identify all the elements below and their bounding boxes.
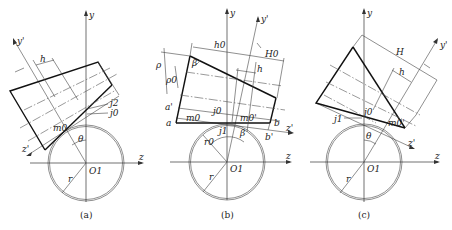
caption-c: (c) <box>358 210 370 220</box>
top-arrow-tick <box>257 43 261 48</box>
rho-dim-line <box>164 48 167 94</box>
h-label: h <box>257 64 263 74</box>
top-arrow-tick <box>424 64 430 68</box>
rho-label: ρ <box>155 60 162 70</box>
m0-label: m0' <box>388 118 405 128</box>
z-axis-label: z <box>285 151 291 161</box>
H0-ext-right <box>277 58 284 98</box>
centerline-1 <box>330 65 420 115</box>
b-prime-label: b' <box>265 132 273 142</box>
centerline-2 <box>24 68 110 110</box>
y-axis-label: y <box>366 8 373 18</box>
rho0-label: ρ0 <box>165 75 177 85</box>
y-prime-label: y' <box>260 14 269 24</box>
h-ext-line-2 <box>52 58 78 100</box>
origin-label: O1 <box>230 164 243 174</box>
theta-label: θ <box>78 134 84 144</box>
centerline-1 <box>20 74 117 128</box>
y-axis-arrow-icon <box>362 8 366 14</box>
origin-label: O1 <box>367 164 380 174</box>
j1-label: j1 <box>332 114 343 124</box>
z-axis-label: z <box>138 152 144 162</box>
panel-b: y z O1 y' z' h0 H0 h ρ ρ0 β a' a b b' m0… <box>155 8 294 220</box>
h0-label: h0 <box>214 40 226 50</box>
beta-label: β <box>239 128 245 138</box>
z-prime-label: z' <box>21 144 29 154</box>
radius-line <box>340 162 364 193</box>
z-prime-label: z' <box>407 138 415 148</box>
z-prime-label: z' <box>285 123 293 133</box>
h-label: h <box>399 67 405 77</box>
y-axis-label: y <box>229 8 236 18</box>
r-line <box>203 162 227 192</box>
H0-label: H0 <box>264 49 279 59</box>
y-axis-arrow-icon <box>225 8 229 14</box>
centerline-2 <box>186 72 283 86</box>
b-prime-tick <box>268 123 270 130</box>
y-prime-label: y' <box>16 36 25 46</box>
H-ext-right <box>416 80 437 115</box>
m0-label: m0 <box>53 123 68 133</box>
theta-label: θ <box>366 131 372 141</box>
h-ext-line <box>373 68 394 110</box>
r0-label: r0 <box>204 137 214 147</box>
y-prime-label: y' <box>439 40 448 50</box>
beta-top-label: β <box>191 58 197 68</box>
z-axis-label: z <box>434 151 440 161</box>
y-axis-arrow-icon <box>84 10 88 16</box>
H-ext-left <box>353 35 362 47</box>
j2-label: j2 <box>108 98 119 108</box>
figure-canvas: y z O1 y' z' h j2 j0 m0 θ r (a) <box>0 0 452 230</box>
h0-ext-left <box>190 43 192 56</box>
a-prime-label: a' <box>165 102 173 112</box>
H-label: H <box>395 47 404 57</box>
caption-b: (b) <box>221 210 234 220</box>
rho-ext-top <box>161 52 190 56</box>
b-label: b <box>274 118 280 128</box>
y-prime-arrow-icon <box>433 38 438 44</box>
centerline-3 <box>28 90 116 141</box>
diagram-svg: y z O1 y' z' h j2 j0 m0 θ r (a) <box>0 0 452 230</box>
m0-label: m0 <box>186 113 201 123</box>
origin-label: O1 <box>89 166 102 176</box>
radius-line <box>62 163 86 193</box>
j0-label: j0 <box>108 108 119 118</box>
r-label: r <box>209 172 214 182</box>
r-label: r <box>346 174 351 184</box>
y-prime-axis <box>227 18 258 162</box>
y-prime-arrow-icon <box>256 16 260 22</box>
centerline-1 <box>180 95 285 110</box>
r-label: r <box>68 174 73 184</box>
h-label: h <box>40 54 46 64</box>
h-dim-arrow-left <box>15 68 24 72</box>
j0-label: j0 <box>211 106 222 116</box>
m0-prime-label: m0' <box>240 113 257 123</box>
caption-a: (a) <box>80 210 92 220</box>
panel-a: y z O1 y' z' h j2 j0 m0 θ r (a) <box>10 10 144 220</box>
a-label: a <box>166 118 171 128</box>
j0-leader <box>87 113 108 114</box>
y-axis-label: y <box>88 10 95 20</box>
j0-label: j0 <box>362 107 373 117</box>
tool-cutting-edge <box>190 56 276 98</box>
panel-c: y z O1 y' z' H h j0 j1 m0' θ r (c) <box>310 8 448 220</box>
j1-label: j1 <box>217 126 228 136</box>
